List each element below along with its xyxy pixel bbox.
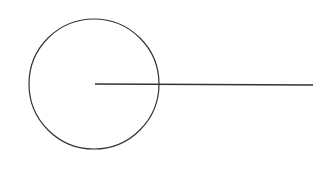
diagram-canvas [0, 0, 330, 172]
radius-line [95, 84, 313, 85]
